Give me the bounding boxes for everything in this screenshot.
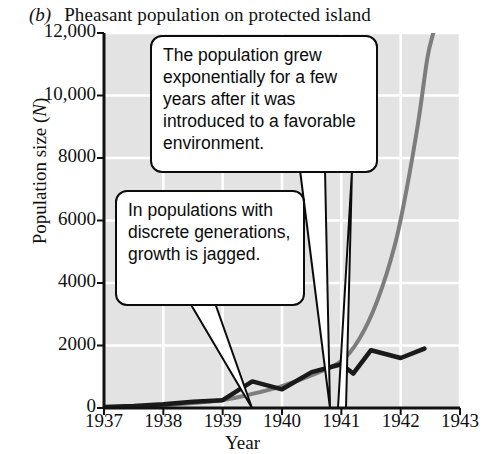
callout-growth: The population grew exponentially for a … [150,35,378,173]
x-tick-label: 1942 [371,410,431,432]
x-tick-label: 1938 [133,410,193,432]
x-tick-label: 1940 [252,410,312,432]
x-tick-label: 1943 [430,410,485,432]
x-tick-label: 1941 [311,410,371,432]
x-axis-label: Year [0,432,485,454]
figure-panel: (b) Pheasant population on protected isl… [0,0,485,454]
x-tick-label: 1937 [74,410,134,432]
callout-jagged: In populations with discrete generations… [115,190,305,306]
x-tick-label: 1939 [193,410,253,432]
